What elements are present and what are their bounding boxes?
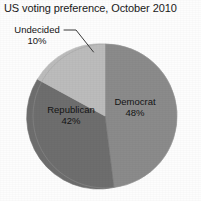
chart-figure: US voting preference, October 2010 Democ… [0,0,201,201]
pie-label-democrat-value: 48% [104,107,166,118]
pie-label-democrat-name: Democrat [114,96,155,107]
pie-label-democrat: Democrat 48% [104,96,166,118]
pie-label-undecided-value: 10% [6,35,68,46]
pie-label-undecided-name: Undecided [14,24,59,35]
pie-label-republican: Republican 42% [38,104,104,126]
pie-label-undecided: Undecided 10% [6,24,68,46]
pie-label-republican-name: Republican [47,104,95,115]
pie-label-republican-value: 42% [38,115,104,126]
